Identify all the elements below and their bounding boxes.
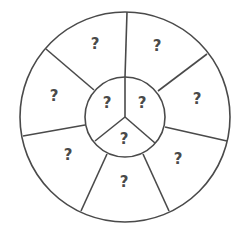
- inner-segment-1-label: ?: [103, 94, 112, 112]
- outer-segment-4-label: ?: [174, 150, 183, 168]
- outer-segment-3-label: ?: [193, 90, 202, 108]
- inner-divider-lower-right: [125, 117, 155, 143]
- outer-divider-lower-right: [143, 154, 169, 211]
- wheel-diagram: ? ? ? ? ? ? ? ? ? ?: [0, 0, 238, 237]
- outer-segment-5-label: ?: [120, 173, 129, 191]
- outer-divider-right: [165, 127, 227, 141]
- outer-segment-6-label: ?: [64, 146, 73, 164]
- outer-divider-upper-left: [46, 49, 94, 90]
- outer-divider-upper-right: [158, 54, 207, 91]
- inner-segment-2-label: ?: [138, 94, 147, 112]
- outer-segment-2-label: ?: [153, 37, 162, 55]
- outer-segment-7-label: ?: [50, 87, 59, 105]
- inner-segment-3-label: ?: [120, 130, 129, 148]
- outer-divider-top: [125, 12, 127, 77]
- outer-segment-1-label: ?: [91, 35, 100, 53]
- outer-divider-left: [23, 125, 85, 136]
- outer-divider-lower-left: [81, 154, 107, 211]
